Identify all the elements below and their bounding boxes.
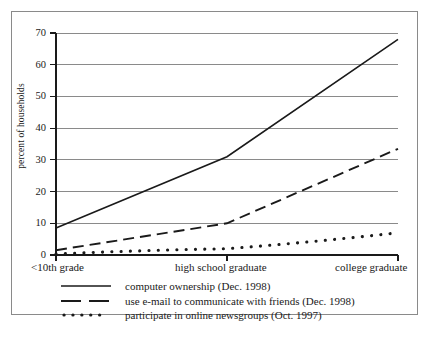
series-email (56, 149, 398, 250)
legend-item-newsgroups: participate in online newsgroups (Oct. 1… (60, 308, 355, 323)
y-tick-label-70: 70 (20, 28, 46, 38)
chart-legend: computer ownership (Dec. 1998) use e-mai… (60, 279, 355, 323)
x-tick-label-college-graduate: college graduate (335, 261, 407, 273)
legend-item-email: use e-mail to communicate with friends (… (60, 294, 355, 309)
gridlines (56, 33, 398, 223)
y-tick-label-40: 40 (20, 123, 46, 133)
y-axis (50, 33, 56, 255)
x-tick-label-lt10th-grade: <10th grade (31, 261, 84, 273)
y-tick-label-10: 10 (20, 218, 46, 228)
figure: percent of households 70 60 50 40 30 20 … (0, 0, 432, 345)
y-tick-label-0: 0 (20, 250, 46, 260)
legend-label-email: use e-mail to communicate with friends (… (125, 295, 355, 307)
legend-swatch-dashed-line (60, 294, 112, 308)
series-computer-ownership (56, 39, 398, 228)
legend-item-computer-ownership: computer ownership (Dec. 1998) (60, 279, 355, 294)
x-tick-label-high-school: high school graduate (175, 261, 267, 273)
y-tick-label-50: 50 (20, 91, 46, 101)
legend-label-computer-ownership: computer ownership (Dec. 1998) (125, 280, 270, 292)
y-tick-label-60: 60 (20, 60, 46, 70)
series-newsgroups (56, 233, 398, 254)
legend-swatch-dotted-line (60, 308, 112, 322)
y-tick-label-20: 20 (20, 187, 46, 197)
y-tick-label-30: 30 (20, 155, 46, 165)
legend-label-newsgroups: participate in online newsgroups (Oct. 1… (125, 309, 322, 321)
legend-swatch-solid-line (60, 279, 112, 293)
